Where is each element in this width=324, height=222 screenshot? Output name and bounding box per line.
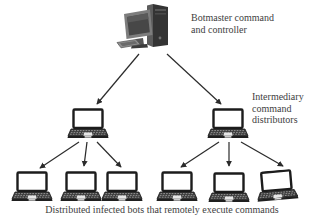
laptop-icon [66,108,110,140]
bot-laptop-6 [254,168,301,208]
laptop-icon [207,172,251,204]
laptop-icon [206,108,250,140]
laptop-icon [254,168,301,204]
arrow-intermediary-2-to-bot-6 [241,142,283,166]
botmaster-label-line-1: Botmaster command [191,12,274,24]
arrow-intermediary-1-to-bot-1 [40,142,79,168]
botmaster-label: Botmaster command and controller [191,12,274,36]
arrow-botmaster-to-intermediary-2 [167,54,221,104]
botmaster-label-line-2: and controller [191,24,274,36]
arrow-botmaster-to-intermediary-1 [97,54,139,104]
intermediary-label-line-1: Intermediary [252,91,304,103]
intermediary-laptop-1 [66,108,110,144]
laptop-icon [59,171,103,203]
arrow-intermediary-2-to-bot-4 [181,142,219,167]
bot-laptop-5 [207,172,251,208]
bot-laptop-4 [155,171,199,207]
diagram-caption: Distributed infected bots that remotely … [0,204,324,216]
intermediary-laptop-2 [206,108,250,144]
intermediary-label: Intermediary command distributors [252,91,304,126]
arrow-intermediary-1-to-bot-2 [84,142,87,166]
laptop-icon [100,171,144,203]
intermediary-label-line-2: command [252,103,304,115]
laptop-icon [10,171,54,203]
bot-laptop-1 [10,171,54,207]
botnet-diagram: Botmaster command and controller Interme… [0,0,324,222]
bot-laptop-3 [100,171,144,207]
intermediary-label-line-3: distributors [252,114,304,126]
laptop-icon [155,171,199,203]
desktop-computer-icon [116,2,174,50]
arrow-intermediary-1-to-bot-3 [97,142,121,167]
bot-laptop-2 [59,171,103,207]
